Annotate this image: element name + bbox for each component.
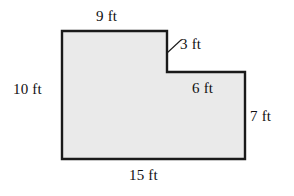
notch-leader-line xyxy=(167,40,181,53)
composite-shape-outline xyxy=(62,31,245,159)
geometry-figure: 9 ft 3 ft 10 ft 6 ft 7 ft 15 ft xyxy=(0,0,294,196)
dimension-label-right: 7 ft xyxy=(250,109,271,124)
dimension-label-bottom: 15 ft xyxy=(129,168,158,183)
dimension-label-top: 9 ft xyxy=(96,9,117,24)
dimension-label-left: 10 ft xyxy=(13,82,42,97)
dimension-label-notch-vertical: 3 ft xyxy=(180,37,201,52)
dimension-label-inner-horizontal: 6 ft xyxy=(192,81,213,96)
